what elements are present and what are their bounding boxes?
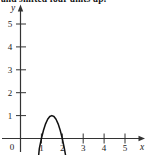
x-tick-label-3: 3 — [81, 143, 86, 153]
y-axis-label: y — [10, 3, 16, 13]
x-tick-label-5: 5 — [123, 143, 128, 153]
y-tick-label-4: 4 — [8, 42, 13, 52]
y-tick-label-3: 3 — [8, 65, 13, 75]
y-tick-label-5: 5 — [8, 19, 13, 29]
x-tick-label-4: 4 — [102, 143, 107, 153]
parabola-plot: y x 0 1 2 3 4 5 1 2 3 4 5 — [0, 0, 147, 155]
y-tick-label-1: 1 — [8, 111, 13, 121]
parabola-figure: and shifted four units up. y x 0 1 2 3 4… — [0, 0, 147, 155]
y-axis-arrow-icon — [18, 5, 23, 12]
origin-label: 0 — [10, 142, 15, 152]
x-axis-label: x — [139, 142, 145, 152]
x-axis-arrow-icon — [139, 136, 146, 141]
y-tick-label-2: 2 — [8, 88, 13, 98]
